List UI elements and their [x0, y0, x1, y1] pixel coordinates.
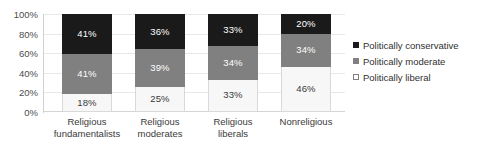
y-axis: 100% 80% 60% 40% 20% 0% — [0, 8, 38, 120]
plot-area: 41% 41% 18% 36% 39% — [44, 14, 345, 112]
bars-layer: 41% 41% 18% 36% 39% — [44, 14, 345, 112]
segment-value-label: 41% — [77, 69, 96, 79]
bar-stack: 36% 39% 25% — [135, 14, 185, 112]
x-axis-labels: Religious fundamentalists Religious mode… — [44, 116, 345, 148]
legend-item-liberal[interactable]: Politically liberal — [353, 70, 477, 84]
segment-value-label: 18% — [77, 98, 96, 108]
y-tick-80: 80% — [0, 30, 38, 40]
segment-value-label: 39% — [150, 63, 169, 73]
segment-moderate[interactable]: 34% — [281, 34, 331, 67]
y-tick-40: 40% — [0, 69, 38, 79]
x-label-line-2: liberals — [186, 128, 280, 140]
segment-liberal[interactable]: 33% — [208, 80, 258, 112]
segment-moderate[interactable]: 39% — [135, 49, 185, 87]
segment-conservative[interactable]: 33% — [208, 14, 258, 46]
segment-value-label: 41% — [77, 29, 96, 39]
segment-value-label: 33% — [223, 25, 242, 35]
segment-value-label: 20% — [296, 19, 315, 29]
legend-label: Politically liberal — [363, 72, 431, 83]
bar-stack: 41% 41% 18% — [62, 14, 112, 112]
y-tick-20: 20% — [0, 88, 38, 98]
x-label-nonreligious: Nonreligious — [259, 116, 353, 128]
legend: Politically conservative Politically mod… — [353, 38, 477, 86]
segment-conservative[interactable]: 41% — [62, 14, 112, 54]
legend-swatch-icon — [353, 74, 359, 80]
segment-conservative[interactable]: 20% — [281, 14, 331, 34]
segment-moderate[interactable]: 34% — [208, 46, 258, 79]
stacked-bar-chart: 100% 80% 60% 40% 20% 0% 41% 41% — [0, 0, 477, 152]
x-label-line-1: Nonreligious — [259, 116, 353, 128]
segment-liberal[interactable]: 46% — [281, 67, 331, 112]
legend-swatch-icon — [353, 58, 359, 64]
segment-value-label: 46% — [296, 84, 315, 94]
legend-swatch-icon — [353, 42, 359, 48]
bar-group-religious-liberals[interactable]: 33% 34% 33% — [208, 14, 258, 112]
bar-stack: 20% 34% 46% — [281, 14, 331, 112]
segment-value-label: 36% — [150, 27, 169, 37]
segment-value-label: 34% — [223, 58, 242, 68]
y-tick-0: 0% — [0, 108, 38, 118]
bar-group-religious-fundamentalists[interactable]: 41% 41% 18% — [62, 14, 112, 112]
bar-group-religious-moderates[interactable]: 36% 39% 25% — [135, 14, 185, 112]
legend-label: Politically conservative — [363, 40, 459, 51]
segment-liberal[interactable]: 25% — [135, 87, 185, 112]
bar-stack: 33% 34% 33% — [208, 14, 258, 112]
legend-item-conservative[interactable]: Politically conservative — [353, 38, 477, 52]
segment-conservative[interactable]: 36% — [135, 14, 185, 49]
segment-value-label: 33% — [223, 90, 242, 100]
segment-moderate[interactable]: 41% — [62, 54, 112, 94]
segment-liberal[interactable]: 18% — [62, 94, 112, 112]
legend-item-moderate[interactable]: Politically moderate — [353, 54, 477, 68]
legend-label: Politically moderate — [363, 56, 445, 67]
bar-group-nonreligious[interactable]: 20% 34% 46% — [281, 14, 331, 112]
segment-value-label: 25% — [150, 94, 169, 104]
y-tick-100: 100% — [0, 10, 38, 20]
segment-value-label: 34% — [296, 45, 315, 55]
y-tick-60: 60% — [0, 49, 38, 59]
